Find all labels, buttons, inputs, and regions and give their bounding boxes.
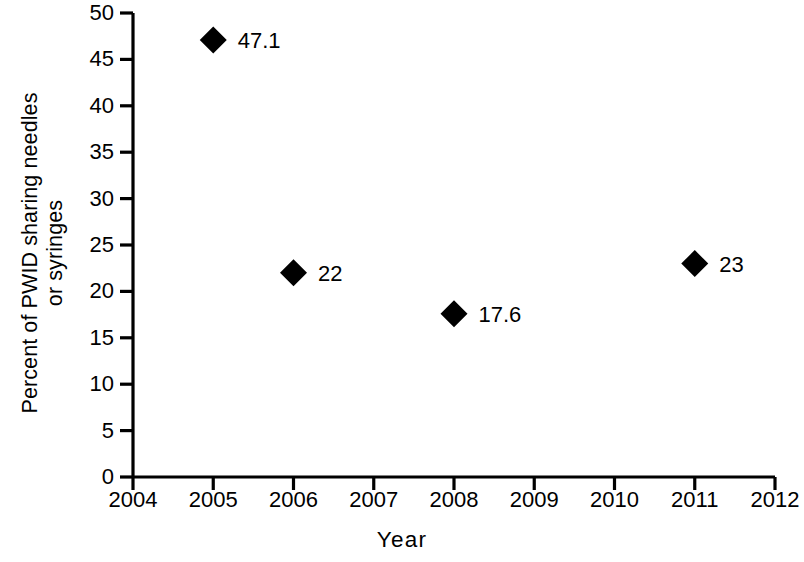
data-point-marker [200, 26, 227, 53]
x-axis-tick-label: 2004 [88, 489, 178, 511]
x-axis-tick-label: 2010 [570, 489, 660, 511]
x-axis-tick-label: 2012 [730, 489, 804, 511]
axes [120, 13, 775, 490]
y-axis-tick-labels: 05101520253035404550 [52, 0, 114, 562]
scatter-chart: Percent of PWID sharing needles or syrin… [0, 0, 804, 562]
data-point-value-label: 47.1 [238, 30, 281, 52]
x-axis-tick-label: 2009 [489, 489, 579, 511]
y-axis-tick-label: 0 [52, 466, 114, 488]
data-point-marker [280, 259, 307, 286]
data-point-value-label: 22 [318, 263, 342, 285]
x-axis-tick-label: 2006 [249, 489, 339, 511]
data-point-value-label: 17.6 [479, 304, 522, 326]
x-axis-tick-label: 2005 [168, 489, 258, 511]
y-axis-tick-label: 5 [52, 420, 114, 442]
x-axis-tick-labels: 200420052006200720082009201020112012 [0, 489, 804, 523]
y-axis-tick-label: 10 [52, 373, 114, 395]
y-axis-tick-label: 25 [52, 234, 114, 256]
data-point-marker [681, 250, 708, 277]
x-axis-tick-label: 2007 [329, 489, 419, 511]
x-axis-tick-label: 2008 [409, 489, 499, 511]
data-point-value-label: 23 [719, 254, 743, 276]
y-axis-tick-label: 40 [52, 95, 114, 117]
y-axis-title-line-1: Percent of PWID sharing needles [18, 93, 43, 414]
data-point-marker [441, 300, 468, 327]
y-axis-tick-label: 20 [52, 280, 114, 302]
x-axis-title: Year [0, 527, 804, 553]
data-markers [200, 26, 709, 327]
y-axis-tick-label: 30 [52, 188, 114, 210]
y-axis-tick-label: 15 [52, 327, 114, 349]
y-axis-tick-label: 35 [52, 141, 114, 163]
y-axis-tick-label: 45 [52, 48, 114, 70]
plot-area [0, 0, 804, 562]
x-axis-tick-label: 2011 [650, 489, 740, 511]
y-axis-tick-label: 50 [52, 2, 114, 24]
